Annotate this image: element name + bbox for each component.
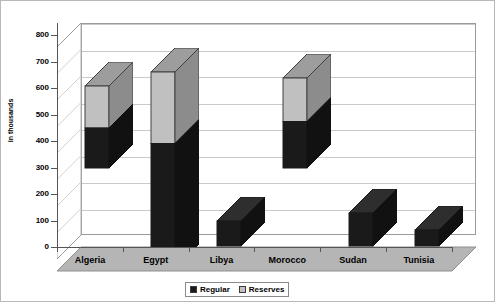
y-tick-label: 600 [15, 84, 49, 92]
x-axis-tick [386, 247, 387, 252]
x-tick-label-libya: Libya [189, 255, 255, 266]
y-tick-label-wrap: 0 [9, 243, 49, 251]
y-tick-label: 500 [15, 111, 49, 119]
y-tick-label: 0 [15, 243, 49, 251]
x-tick-label-egypt: Egypt [123, 255, 189, 266]
legend-item-regular: Regular [190, 285, 230, 294]
y-axis-tick [51, 115, 57, 116]
gridline [82, 51, 475, 52]
y-tick-label-wrap: 300 [9, 164, 49, 172]
x-axis-tick [189, 247, 190, 252]
y-axis-title: in thousands [7, 91, 14, 151]
y-axis-tick [51, 141, 57, 142]
y-axis-tick [51, 88, 57, 89]
y-tick-label: 100 [15, 217, 49, 225]
y-tick-label-wrap: 700 [9, 58, 49, 66]
x-tick-label-morocco: Morocco [254, 255, 320, 266]
y-axis-tick [51, 62, 57, 63]
x-tick-label-sudan: Sudan [320, 255, 386, 266]
y-tick-label: 200 [15, 190, 49, 198]
y-axis-line [57, 23, 58, 247]
chart-container: 0 100 200 300 400 500 600 700 800 in tho… [0, 0, 495, 302]
y-tick-label-wrap: 100 [9, 217, 49, 225]
bar-algeria [81, 62, 133, 248]
x-axis-tick [320, 247, 321, 252]
x-tick-label-algeria: Algeria [57, 255, 123, 266]
y-tick-label-wrap: 600 [9, 84, 49, 92]
y-axis-tick [51, 221, 57, 222]
bar-morocco [279, 54, 331, 248]
y-tick-label: 700 [15, 58, 49, 66]
y-tick-label: 300 [15, 164, 49, 172]
y-tick-label-wrap: 800 [9, 31, 49, 39]
legend-label-regular: Regular [200, 285, 230, 294]
legend-label-reserves: Reserves [249, 285, 285, 294]
chart-legend: Regular Reserves [185, 282, 289, 297]
y-tick-label-wrap: 500 [9, 111, 49, 119]
y-axis-tick [51, 35, 57, 36]
y-tick-label-wrap: 200 [9, 190, 49, 198]
y-tick-label: 800 [15, 31, 49, 39]
x-axis-tick [452, 247, 453, 252]
y-tick-label-wrap: 400 [9, 137, 49, 145]
legend-item-reserves: Reserves [239, 285, 285, 294]
bar-egypt [147, 48, 199, 248]
x-axis-tick [57, 247, 58, 252]
x-tick-label-tunisia: Tunisia [386, 255, 452, 266]
gridline [82, 24, 475, 25]
legend-swatch-regular-icon [190, 286, 197, 293]
legend-swatch-reserves-icon [239, 286, 246, 293]
y-axis-tick [51, 168, 57, 169]
x-axis-tick [123, 247, 124, 252]
y-tick-label: 400 [15, 137, 49, 145]
x-axis-tick [254, 247, 255, 252]
y-axis-tick [51, 194, 57, 195]
